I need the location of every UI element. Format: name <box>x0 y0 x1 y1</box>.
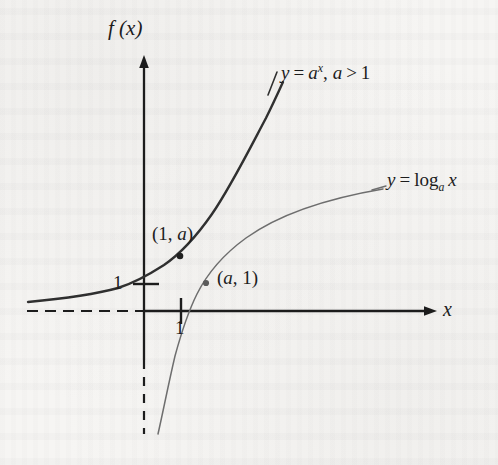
exp-label-comma: , <box>323 62 328 83</box>
exp-label-relation: > <box>346 62 357 83</box>
exp-label-equals: = <box>293 62 304 83</box>
point-marker-one-a <box>177 253 184 260</box>
exp-label-lhs: y <box>281 62 289 83</box>
point-label-a-one: (a, 1) <box>217 268 258 287</box>
x-axis-arrowhead <box>424 306 437 315</box>
log-label-arg: x <box>448 169 456 190</box>
exponential-curve-label: y=ax,a>1 <box>281 63 370 82</box>
exp-label-condition-value: 1 <box>361 62 371 83</box>
pt1a-x: 1 <box>158 223 168 244</box>
pta1-close: ) <box>252 267 258 288</box>
point-label-one-a: (1, a) <box>152 224 193 243</box>
pt1a-y: a <box>177 223 187 244</box>
exp-label-condition-base: a <box>333 62 343 83</box>
graph-canvas <box>0 0 498 465</box>
pta1-comma: , <box>233 267 243 288</box>
log-label-lhs: y <box>387 169 395 190</box>
y-axis-tick-label-one: 1 <box>113 273 123 292</box>
pt1a-close: ) <box>187 223 193 244</box>
y-axis-label: f (x) <box>108 18 142 39</box>
exp-label-base: a <box>308 62 318 83</box>
y-axis-label-text: f (x) <box>108 16 142 40</box>
point-marker-a-one <box>203 280 209 286</box>
x-axis-tick-label-one: 1 <box>175 318 185 337</box>
log-label-fn: log <box>414 169 438 190</box>
log-label-equals: = <box>399 169 410 190</box>
y-axis-arrowhead <box>139 55 149 68</box>
logarithmic-curve-label: y=logax <box>387 170 457 189</box>
pt1a-comma: , <box>168 223 178 244</box>
exponential-label-leader <box>268 72 277 95</box>
pta1-y: 1 <box>242 267 252 288</box>
pta1-x: a <box>223 267 233 288</box>
exponential-logarithm-graph-figure: f (x) x y=ax,a>1 y=logax (1, a) (a, 1) 1… <box>0 0 498 465</box>
x-axis-label: x <box>443 299 452 319</box>
log-label-subscript: a <box>438 181 444 194</box>
